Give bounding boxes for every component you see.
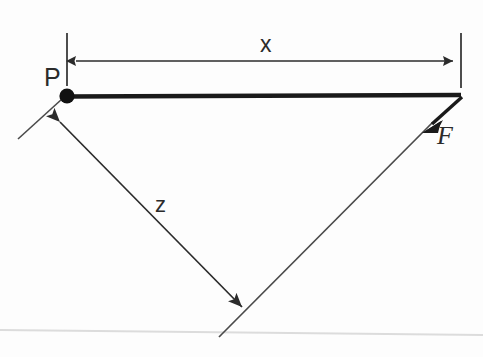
force-line-of-action bbox=[219, 123, 432, 337]
diagram-canvas: P x z F bbox=[0, 0, 483, 357]
label-point-p: P bbox=[44, 63, 61, 91]
label-force-f: F bbox=[436, 121, 454, 150]
perpendicular-guide bbox=[18, 99, 62, 139]
z-dimension-line bbox=[60, 122, 242, 307]
force-arrow-shaft bbox=[432, 97, 462, 124]
ground-baseline bbox=[0, 330, 483, 335]
label-dimension-z: z bbox=[155, 192, 166, 217]
pivot-point-marker bbox=[59, 88, 74, 103]
label-dimension-x: x bbox=[260, 31, 272, 57]
rigid-beam bbox=[67, 95, 461, 97]
force-diagram-figure: P x z F bbox=[0, 0, 483, 357]
